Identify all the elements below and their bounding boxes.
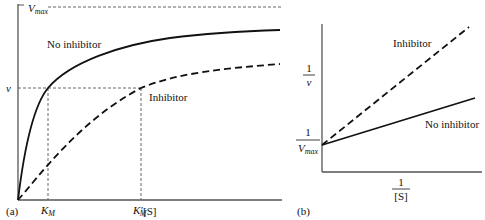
- panel-b-y-axis-label: 1 v: [303, 62, 315, 88]
- svg-text:1: 1: [398, 176, 404, 188]
- inhibitor-curve: [18, 64, 280, 200]
- svg-text:v: v: [307, 76, 312, 88]
- panel-b-no-inhibitor-label: No inhibitor: [425, 118, 479, 130]
- panel-a-tag: (a): [6, 205, 19, 218]
- panel-b-inhibitor-label: Inhibitor: [393, 37, 432, 49]
- svg-text:1: 1: [305, 126, 311, 138]
- svg-text:[S]: [S]: [394, 190, 407, 202]
- v-label: v: [6, 82, 11, 94]
- inhibitor-label: Inhibitor: [149, 91, 188, 103]
- no-inhibitor-label: No inhibitor: [47, 38, 101, 50]
- panel-b: Inhibitor No inhibitor 1 v 1 Vmax 1 [S] …: [296, 24, 482, 218]
- panel-b-x-axis-label: 1 [S]: [392, 176, 410, 202]
- panel-a-x-axis-label: [S]: [143, 205, 156, 217]
- panel-b-tag: (b): [297, 205, 310, 218]
- km-label: KM: [40, 204, 56, 218]
- panel-b-intercept-label: 1 Vmax: [296, 126, 320, 156]
- figure: Vmax v No inhibitor Inhibitor KM K′M (a)…: [0, 0, 485, 220]
- svg-text:1: 1: [306, 62, 312, 74]
- svg-text:Vmax: Vmax: [298, 142, 319, 156]
- panel-a: Vmax v No inhibitor Inhibitor KM K′M (a)…: [6, 2, 282, 218]
- vmax-label: Vmax: [28, 2, 49, 16]
- no-inhibitor-curve: [18, 30, 280, 200]
